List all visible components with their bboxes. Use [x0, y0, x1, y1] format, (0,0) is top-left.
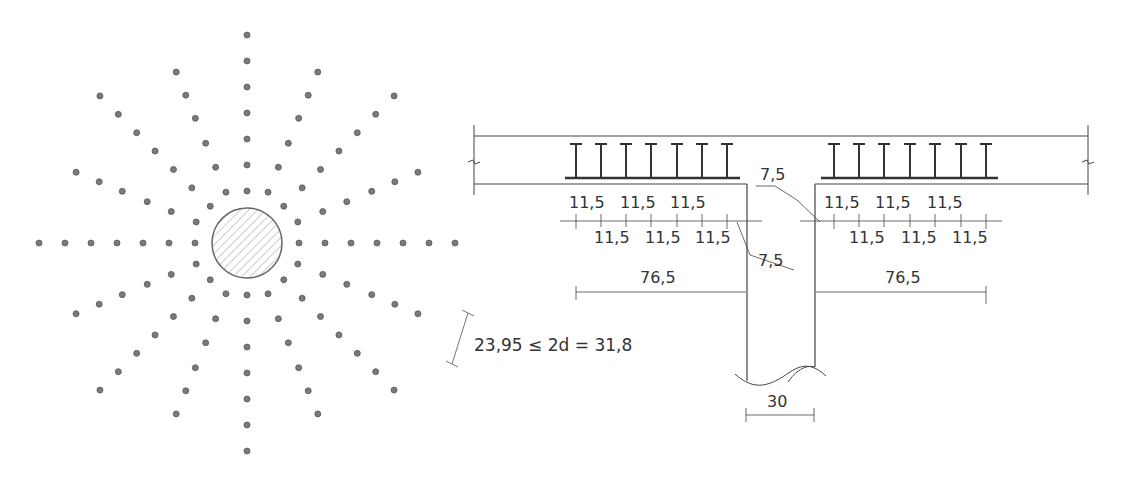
- stud-dot: [119, 292, 125, 298]
- stud-dot: [348, 240, 354, 246]
- plan-view: 23,95 ≤ 2d = 31,8: [36, 32, 632, 454]
- stud-dot: [170, 166, 176, 172]
- stud-dot: [140, 240, 146, 246]
- stud-dot: [320, 271, 326, 277]
- stud-dot: [223, 291, 229, 297]
- stud-dot: [244, 396, 250, 402]
- stud-dot: [207, 277, 213, 283]
- stud-dot: [244, 162, 250, 168]
- stud-dot: [192, 365, 198, 371]
- stud-dot: [115, 111, 121, 117]
- stud-dot: [296, 115, 302, 121]
- stud-dot: [97, 93, 103, 99]
- spacing-dimension: [446, 310, 474, 367]
- spacing-dim-label: 11,5: [875, 193, 911, 212]
- stud-dot: [244, 188, 250, 194]
- stud-dot: [322, 240, 328, 246]
- label-7-5-bottom: 7,5: [758, 251, 783, 270]
- spacing-dim-label: 11,5: [620, 193, 656, 212]
- stud-dot: [96, 301, 102, 307]
- stud-dot: [193, 261, 199, 267]
- stud-dot: [152, 148, 158, 154]
- stud-dot: [265, 291, 271, 297]
- spacing-dim-label: 11,5: [670, 193, 706, 212]
- stud-dot: [144, 281, 150, 287]
- stud-dot: [173, 69, 179, 75]
- stud-dot: [88, 240, 94, 246]
- stud-dot: [281, 277, 287, 283]
- stud-dot: [369, 292, 375, 298]
- stud-dot: [275, 164, 281, 170]
- stud-dot: [426, 240, 432, 246]
- label-column-width: 30: [767, 392, 787, 411]
- label-total-left: 76,5: [640, 268, 676, 287]
- spacing-dim-label: 11,5: [645, 228, 681, 247]
- stud-dot: [315, 69, 321, 75]
- stud-dot: [318, 314, 324, 320]
- stud-dot: [400, 240, 406, 246]
- stud-dot: [223, 189, 229, 195]
- stud-dot: [168, 271, 174, 277]
- stud-dot: [369, 188, 375, 194]
- stud-dot: [336, 148, 342, 154]
- stud-dot: [344, 199, 350, 205]
- stud-dot: [336, 332, 342, 338]
- stud-dot: [168, 209, 174, 215]
- stud-dot: [244, 292, 250, 298]
- stud-dot: [192, 240, 198, 246]
- stud-dot: [315, 411, 321, 417]
- stud-dot: [62, 240, 68, 246]
- stud-dot: [415, 169, 421, 175]
- stud-dot: [119, 188, 125, 194]
- stud-dot: [344, 281, 350, 287]
- spacing-dim-label: 11,5: [952, 228, 988, 247]
- stud-dot: [244, 344, 250, 350]
- stud-dot: [114, 240, 120, 246]
- stud-dot: [244, 110, 250, 116]
- stud-dot: [97, 387, 103, 393]
- stud-dot: [244, 370, 250, 376]
- punching-shear-reinforcement-drawing: 23,95 ≤ 2d = 31,8 11,511,511,511,511,511: [0, 0, 1135, 480]
- stud-dot: [244, 422, 250, 428]
- stud-dot: [392, 301, 398, 307]
- stud-dot: [354, 350, 360, 356]
- stud-dot: [192, 115, 198, 121]
- stud-dot: [244, 318, 250, 324]
- stud-dot: [354, 130, 360, 136]
- stud-dot: [391, 387, 397, 393]
- stud-dot: [320, 209, 326, 215]
- stud-dot: [144, 199, 150, 205]
- stud-dot: [299, 185, 305, 191]
- spacing-dim-label: 11,5: [569, 193, 605, 212]
- stud-dot: [296, 365, 302, 371]
- stud-dot: [134, 130, 140, 136]
- stud-dot: [166, 240, 172, 246]
- stud-dot: [189, 185, 195, 191]
- stud-dot: [373, 369, 379, 375]
- stud-dot: [373, 111, 379, 117]
- stud-dot: [152, 332, 158, 338]
- stud-dot: [73, 311, 79, 317]
- spacing-dim-label: 11,5: [927, 193, 963, 212]
- stud-dot: [295, 261, 301, 267]
- stud-dot: [203, 140, 209, 146]
- label-7-5-top: 7,5: [760, 165, 785, 184]
- stud-dot: [299, 295, 305, 301]
- stud-dot: [134, 350, 140, 356]
- section-labels: 11,511,511,511,511,511,511,511,511,511,5…: [569, 193, 988, 247]
- stud-dot: [295, 219, 301, 225]
- stud-dot: [213, 164, 219, 170]
- stud-dot: [285, 140, 291, 146]
- label-total-right: 76,5: [885, 268, 921, 287]
- stud-dot: [244, 32, 250, 38]
- stud-dot: [244, 448, 250, 454]
- stud-dot: [281, 203, 287, 209]
- stud-dot: [452, 240, 458, 246]
- stud-dot: [391, 93, 397, 99]
- stud-dot: [275, 316, 281, 322]
- stud-dot: [392, 179, 398, 185]
- stud-dot: [115, 369, 121, 375]
- stud-dot: [183, 92, 189, 98]
- stud-dot: [193, 219, 199, 225]
- stud-dot: [244, 84, 250, 90]
